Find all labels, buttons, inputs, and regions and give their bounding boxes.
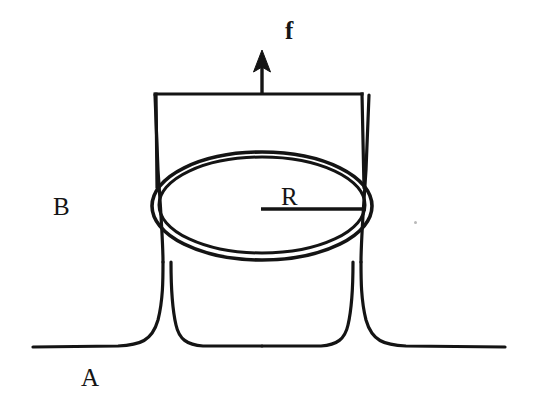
scan-speck xyxy=(414,221,417,224)
region-b-label: B xyxy=(53,194,70,219)
ring-inner-edge xyxy=(159,157,365,253)
force-label: f xyxy=(285,18,293,43)
radius-label: R xyxy=(281,184,298,209)
region-a-label: A xyxy=(81,365,99,390)
figure-canvas: f R B A xyxy=(0,0,533,405)
soap-film-outline xyxy=(33,95,505,347)
frame-right-edge xyxy=(362,94,364,187)
ring-outer-edge xyxy=(152,152,372,260)
ring-ellipse xyxy=(152,152,372,260)
force-arrow xyxy=(254,50,271,94)
baseline-right-segment xyxy=(361,262,505,347)
frame-left-edge xyxy=(156,94,157,187)
film-wall-left-inner xyxy=(171,262,262,346)
film-wall-right-inner xyxy=(262,262,353,346)
diagram-svg xyxy=(0,0,533,405)
baseline-left-segment xyxy=(33,262,163,347)
